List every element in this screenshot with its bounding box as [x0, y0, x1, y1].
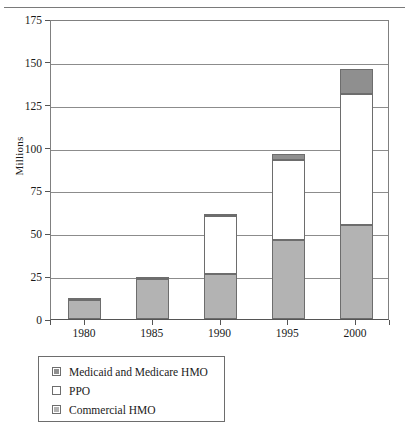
bar-segment-commercial-hmo [136, 279, 169, 319]
legend-swatch-icon [52, 367, 61, 376]
y-tick-label: 0 [36, 312, 42, 328]
x-tick-mark [152, 320, 153, 325]
top-horizontal-rule [4, 7, 405, 8]
chart-legend: Medicaid and Medicare HMOPPOCommercial H… [38, 356, 225, 422]
x-tick-label-2000: 2000 [320, 327, 390, 339]
x-tick-label-1985: 1985 [117, 327, 187, 339]
legend-item: Medicaid and Medicare HMO [52, 362, 224, 381]
x-tick-label-1980: 1980 [49, 327, 119, 339]
bar-segment-medicaid-and-medicare-hmo [272, 154, 305, 159]
bar-segment-medicaid-and-medicare-hmo [204, 214, 237, 217]
bar-segment-commercial-hmo [68, 300, 101, 319]
y-tick-label: 150 [25, 55, 42, 71]
x-tick-label-1995: 1995 [252, 327, 322, 339]
bar-1995 [272, 19, 305, 319]
legend-swatch-icon [52, 405, 61, 414]
y-axis-ticks: 0255075100125150175 [0, 20, 50, 320]
bar-segment-ppo [204, 216, 237, 273]
x-tick-mark [84, 320, 85, 325]
y-tick-label: 25 [31, 269, 43, 285]
bar-segment-ppo [272, 160, 305, 241]
x-tick-mark [287, 320, 288, 325]
bar-segment-medicaid-and-medicare-hmo [68, 298, 101, 300]
bar-segment-medicaid-and-medicare-hmo [340, 69, 373, 95]
y-tick-label: 175 [25, 12, 42, 28]
bar-segment-medicaid-and-medicare-hmo [136, 277, 169, 279]
legend-label: Medicaid and Medicare HMO [69, 366, 208, 378]
bar-1985 [136, 19, 169, 319]
y-tick-label: 125 [25, 98, 42, 114]
bar-segment-commercial-hmo [272, 240, 305, 319]
x-tick-mark [50, 320, 51, 325]
x-tick-mark [355, 320, 356, 325]
legend-swatch-fill [53, 387, 60, 394]
plot-area [50, 20, 389, 320]
legend-item: Commercial HMO [52, 400, 224, 419]
x-tick-label-1990: 1990 [185, 327, 255, 339]
bar-segment-commercial-hmo [204, 274, 237, 319]
x-tick-mark [220, 320, 221, 325]
bar-1990 [204, 19, 237, 319]
bar-2000 [340, 19, 373, 319]
bar-segment-ppo [340, 94, 373, 224]
y-tick-label: 50 [31, 226, 43, 242]
legend-label: Commercial HMO [69, 404, 156, 416]
y-tick-label: 100 [25, 141, 42, 157]
legend-swatch-fill [53, 406, 60, 413]
legend-swatch-fill [53, 368, 60, 375]
x-axis-ticks: 19801985199019952000 [50, 320, 389, 344]
bar-segment-commercial-hmo [340, 225, 373, 319]
chart-figure: Millions 0255075100125150175 19801985199… [0, 0, 409, 430]
legend-item: PPO [52, 381, 224, 400]
x-tick-mark [389, 320, 390, 325]
legend-swatch-icon [52, 386, 61, 395]
bar-1980 [68, 19, 101, 319]
y-tick-label: 75 [31, 183, 43, 199]
legend-label: PPO [69, 385, 90, 397]
